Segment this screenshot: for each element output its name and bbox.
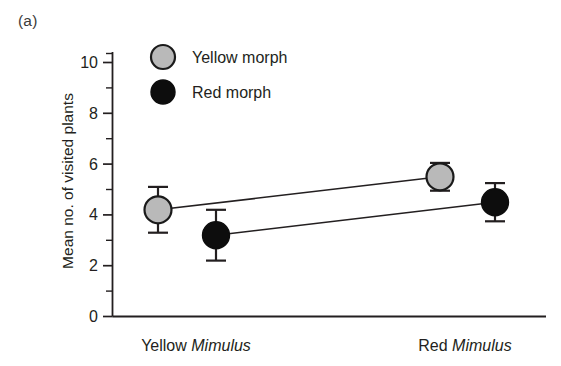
legend-marker-red-morph	[151, 80, 175, 104]
x-category-genus-red: Mimulus	[452, 337, 512, 354]
y-tick-label-6: 6	[89, 156, 98, 173]
legend-marker-yellow-morph	[151, 45, 175, 69]
x-category-prefix-yellow: Yellow	[141, 337, 191, 354]
y-tick-label-4: 4	[89, 206, 98, 223]
y-tick-label-8: 8	[89, 105, 98, 122]
datapoint-yellow-morph-red-mimulus	[427, 163, 454, 191]
x-category-genus-yellow: Mimulus	[191, 337, 251, 354]
figure-panel: (a) Mean no. of visited plants 0 2 4 6	[0, 0, 561, 366]
legend: Yellow morph Red morph	[151, 45, 287, 104]
x-category-label-yellow-mimulus: Yellow Mimulus	[141, 337, 251, 354]
chart-plot-area: 0 2 4 6 8 10	[0, 0, 561, 366]
y-tick-label-10: 10	[80, 54, 98, 71]
datapoint-red-morph-yellow-mimulus	[203, 210, 230, 261]
datapoint-yellow-morph-yellow-mimulus	[145, 187, 172, 233]
y-axis-minor-ticks	[106, 54, 113, 292]
x-category-prefix-red: Red	[418, 337, 452, 354]
x-category-label-red-mimulus: Red Mimulus	[418, 337, 511, 354]
legend-label-yellow-morph: Yellow morph	[192, 49, 287, 66]
datapoint-red-morph-red-mimulus	[482, 183, 509, 221]
series-line-yellow-morph	[158, 177, 440, 210]
series-line-red-morph	[216, 202, 495, 235]
y-tick-label-0: 0	[89, 308, 98, 325]
legend-label-red-morph: Red morph	[192, 84, 271, 101]
y-tick-label-2: 2	[89, 257, 98, 274]
